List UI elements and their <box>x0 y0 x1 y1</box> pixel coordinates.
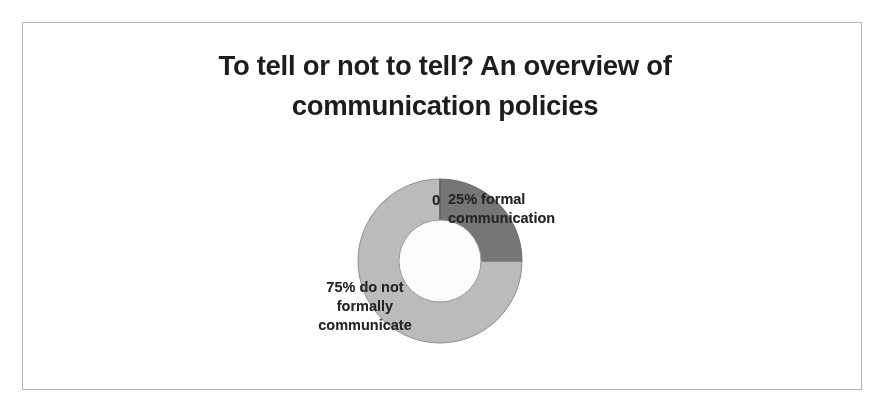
page-title-line-1: To tell or not to tell? An overview of <box>218 50 671 81</box>
data-label-formal-line-2: communication <box>448 210 555 226</box>
data-label-informal-line-2: formally <box>337 298 393 314</box>
slide-canvas: To tell or not to tell? An overview of c… <box>0 0 887 417</box>
data-label-informal-line-3: communicate <box>318 317 411 333</box>
page-title: To tell or not to tell? An overview of c… <box>80 46 810 126</box>
data-label-informal: 75% do not formally communicate <box>290 278 440 335</box>
data-label-formal-line-1: 25% formal <box>448 191 525 207</box>
donut-chart: 0 25% formal communication 75% do not fo… <box>280 160 640 370</box>
data-label-series-marker: 0 <box>432 190 440 209</box>
data-label-formal: 25% formal communication <box>448 190 555 228</box>
data-label-informal-line-1: 75% do not <box>326 279 403 295</box>
page-title-line-2: communication policies <box>80 86 810 126</box>
